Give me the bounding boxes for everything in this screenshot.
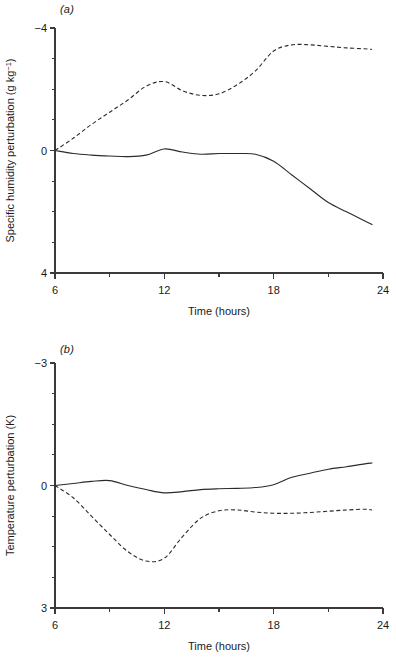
y-tick-label: 4: [41, 267, 47, 279]
y-tick-label: −4: [34, 22, 47, 34]
y-axis-title-main: Specific humidity perturbation (g kg: [4, 71, 16, 243]
series-line-dashed: [55, 486, 372, 562]
y-axis-title-tail: ): [4, 58, 16, 62]
series-line-solid: [55, 149, 372, 225]
chart-panel-a: (a) 40−46121824Time (hours)Specific humi…: [0, 0, 396, 340]
x-tick-label: 12: [158, 284, 170, 296]
x-tick-label: 12: [158, 619, 170, 631]
y-axis-title-superscript: −1: [4, 62, 13, 71]
x-tick-label: 24: [377, 284, 389, 296]
y-tick-label: 0: [41, 480, 47, 492]
x-tick-label: 6: [52, 619, 58, 631]
x-tick-label: 18: [268, 284, 280, 296]
x-tick-label: 18: [268, 619, 280, 631]
series-line-solid: [55, 463, 372, 493]
series-line-dashed: [55, 44, 372, 150]
y-axis-title: Temperature perturbation (K): [4, 415, 16, 556]
y-axis-title-main: Temperature perturbation (K): [4, 415, 16, 556]
x-axis-title: Time (hours): [188, 640, 250, 652]
y-tick-label: 3: [41, 602, 47, 614]
x-axis-title: Time (hours): [188, 305, 250, 317]
x-tick-label: 6: [52, 284, 58, 296]
figure-container: (a) 40−46121824Time (hours)Specific humi…: [0, 0, 396, 671]
chart-panel-b: (b) 30−36121824Time (hours)Temperature p…: [0, 340, 396, 671]
x-tick-label: 24: [377, 619, 389, 631]
plot-area-b: 30−36121824Time (hours)Temperature pertu…: [0, 340, 396, 671]
y-tick-label: −3: [34, 357, 47, 369]
y-axis-title: Specific humidity perturbation (g kg−1): [4, 58, 17, 242]
y-tick-label: 0: [41, 145, 47, 157]
plot-area-a: 40−46121824Time (hours)Specific humidity…: [0, 0, 396, 340]
